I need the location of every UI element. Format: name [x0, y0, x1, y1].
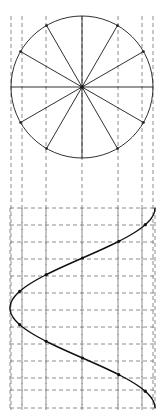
circle-division-point: [142, 50, 145, 53]
curve-data-point: [144, 223, 147, 226]
curve-data-point: [45, 273, 48, 276]
figure-canvas: [0, 0, 165, 415]
circle-division-point: [116, 24, 119, 27]
curve-data-point: [45, 340, 48, 343]
radial-spoke: [82, 52, 143, 88]
curve-data-point: [81, 256, 84, 259]
sine-construction-figure: [0, 0, 165, 415]
circle-division-point: [19, 121, 22, 124]
curve-data-point: [117, 373, 120, 376]
curve-markers-group: [18, 223, 147, 393]
circle-division-point: [45, 147, 48, 150]
curve-data-point: [81, 356, 84, 359]
curve-data-point: [18, 323, 21, 326]
curve-data-point: [144, 390, 147, 393]
grid-group: [10, 208, 155, 408]
circle-division-point: [142, 121, 145, 124]
circle-division-point: [19, 50, 22, 53]
circle-center-point: [80, 85, 84, 89]
radial-spoke: [21, 87, 82, 123]
radial-spoke: [47, 87, 83, 148]
curve-data-point: [18, 290, 21, 293]
radial-spoke: [21, 52, 82, 88]
circle-division-point: [45, 24, 48, 27]
radial-spoke: [82, 87, 143, 123]
radial-spoke: [82, 87, 118, 148]
circle-division-point: [116, 147, 119, 150]
radial-spoke: [82, 26, 118, 87]
radial-spoke: [47, 26, 83, 87]
curve-data-point: [117, 240, 120, 243]
